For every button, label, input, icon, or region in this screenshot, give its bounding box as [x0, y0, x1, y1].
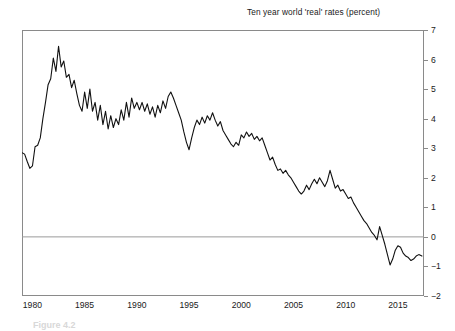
x-tick-label: 1995	[180, 300, 199, 310]
y-tick-mark	[424, 30, 428, 31]
x-tick-label: 2010	[336, 300, 355, 310]
y-tick-label: 6	[431, 55, 436, 65]
real-rates-line	[22, 46, 422, 265]
y-tick-mark	[424, 237, 428, 238]
chart-title: Ten year world 'real' rates (percent)	[247, 7, 380, 17]
y-tick-mark	[424, 148, 428, 149]
y-tick-label: 0	[431, 232, 436, 242]
y-tick-label: 4	[431, 114, 436, 124]
y-tick-label: −2	[431, 291, 441, 301]
x-tick-label: 2015	[388, 300, 407, 310]
y-tick-mark	[424, 89, 428, 90]
y-tick-label: 2	[431, 173, 436, 183]
figure-caption: Figure 4.2	[33, 320, 76, 330]
y-tick-label: −1	[431, 261, 441, 271]
y-tick-mark	[424, 296, 428, 297]
x-tick-label: 1980	[23, 300, 42, 310]
x-tick-label: 2000	[232, 300, 251, 310]
y-tick-mark	[424, 119, 428, 120]
plot-area	[22, 30, 424, 296]
y-tick-mark	[424, 266, 428, 267]
y-tick-label: 3	[431, 143, 436, 153]
y-tick-label: 5	[431, 84, 436, 94]
x-tick-label: 2005	[284, 300, 303, 310]
y-tick-mark	[424, 207, 428, 208]
x-tick-label: 1985	[75, 300, 94, 310]
y-tick-mark	[424, 60, 428, 61]
y-tick-mark	[424, 178, 428, 179]
y-tick-label: 1	[431, 202, 436, 212]
chart-figure: Ten year world 'real' rates (percent) −2…	[0, 0, 455, 331]
y-tick-label: 7	[431, 25, 436, 35]
line-series-svg	[22, 30, 424, 296]
x-tick-label: 1990	[127, 300, 146, 310]
